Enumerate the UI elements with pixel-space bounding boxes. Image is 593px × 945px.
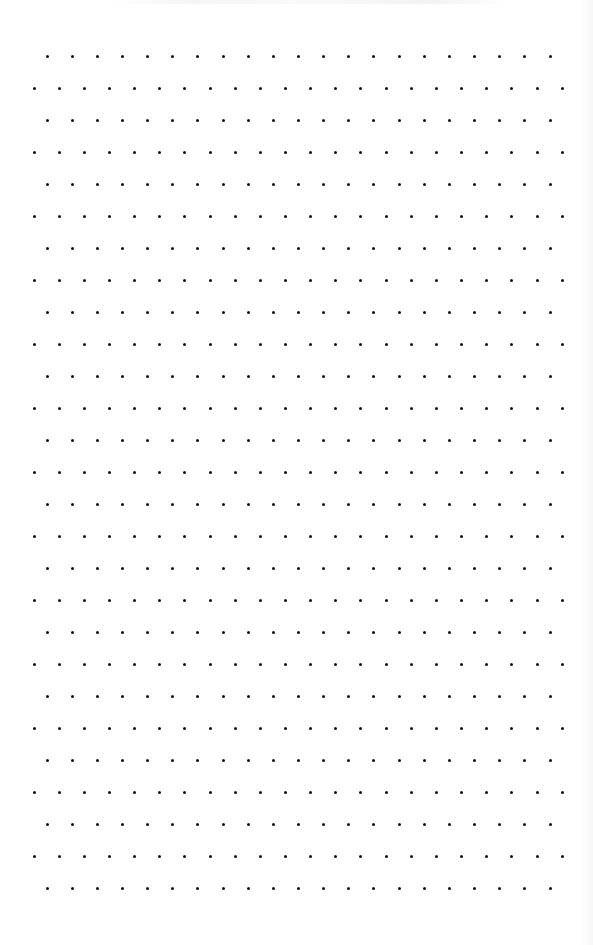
grid-dot (247, 119, 250, 122)
grid-dot (297, 311, 300, 314)
grid-dot (385, 855, 388, 858)
grid-dot (309, 535, 312, 538)
grid-dot (46, 183, 49, 186)
grid-dot (183, 151, 186, 154)
grid-dot (71, 311, 74, 314)
grid-dot (498, 247, 501, 250)
grid-dot (347, 247, 350, 250)
grid-dot (561, 471, 564, 474)
grid-dot (96, 183, 99, 186)
grid-dot (385, 727, 388, 730)
grid-dot (83, 599, 86, 602)
grid-dot (46, 631, 49, 634)
grid-dot (410, 663, 413, 666)
grid-dot (398, 183, 401, 186)
grid-dot (146, 567, 149, 570)
dot-row (0, 887, 593, 891)
grid-dot (410, 407, 413, 410)
grid-dot (334, 599, 337, 602)
grid-dot (435, 855, 438, 858)
grid-dot (359, 791, 362, 794)
grid-dot (183, 407, 186, 410)
grid-dot (272, 119, 275, 122)
grid-dot (523, 759, 526, 762)
dot-row (0, 247, 593, 251)
grid-dot (272, 439, 275, 442)
grid-dot (83, 87, 86, 90)
grid-dot (473, 631, 476, 634)
grid-dot (58, 407, 61, 410)
grid-dot (398, 631, 401, 634)
grid-dot (158, 407, 161, 410)
grid-dot (108, 87, 111, 90)
grid-dot (322, 887, 325, 890)
grid-dot (473, 887, 476, 890)
grid-dot (83, 343, 86, 346)
grid-dot (297, 183, 300, 186)
grid-dot (209, 727, 212, 730)
grid-dot (334, 87, 337, 90)
grid-dot (234, 471, 237, 474)
grid-dot (334, 471, 337, 474)
grid-dot (209, 151, 212, 154)
grid-dot (108, 151, 111, 154)
grid-dot (272, 759, 275, 762)
grid-dot (322, 759, 325, 762)
grid-dot (347, 759, 350, 762)
grid-dot (485, 407, 488, 410)
grid-dot (498, 55, 501, 58)
grid-dot (247, 183, 250, 186)
grid-dot (272, 887, 275, 890)
grid-dot (209, 663, 212, 666)
grid-dot (372, 55, 375, 58)
grid-dot (473, 759, 476, 762)
grid-dot (121, 823, 124, 826)
grid-dot (510, 663, 513, 666)
grid-dot (423, 759, 426, 762)
dot-row (0, 503, 593, 507)
grid-dot (247, 247, 250, 250)
grid-dot (46, 247, 49, 250)
grid-dot (297, 759, 300, 762)
grid-dot (46, 311, 49, 314)
grid-dot (133, 791, 136, 794)
grid-dot (83, 663, 86, 666)
grid-dot (448, 375, 451, 378)
grid-dot (96, 823, 99, 826)
grid-dot (322, 247, 325, 250)
grid-dot (33, 855, 36, 858)
grid-dot (133, 599, 136, 602)
grid-dot (284, 791, 287, 794)
grid-dot (146, 503, 149, 506)
grid-dot (485, 471, 488, 474)
grid-dot (171, 631, 174, 634)
grid-dot (549, 183, 552, 186)
grid-dot (435, 727, 438, 730)
grid-dot (536, 471, 539, 474)
grid-dot (259, 343, 262, 346)
grid-dot (309, 407, 312, 410)
grid-dot (71, 503, 74, 506)
grid-dot (297, 55, 300, 58)
grid-dot (523, 119, 526, 122)
grid-dot (146, 119, 149, 122)
grid-dot (196, 439, 199, 442)
grid-dot (46, 55, 49, 58)
grid-dot (385, 599, 388, 602)
grid-dot (435, 215, 438, 218)
grid-dot (209, 407, 212, 410)
dot-row (0, 151, 593, 155)
grid-dot (523, 695, 526, 698)
grid-dot (485, 87, 488, 90)
grid-dot (33, 599, 36, 602)
grid-dot (46, 503, 49, 506)
grid-dot (158, 279, 161, 282)
grid-dot (272, 631, 275, 634)
grid-dot (523, 567, 526, 570)
grid-dot (71, 247, 74, 250)
grid-dot (510, 343, 513, 346)
grid-dot (158, 599, 161, 602)
grid-dot (561, 791, 564, 794)
grid-dot (473, 247, 476, 250)
grid-dot (121, 375, 124, 378)
